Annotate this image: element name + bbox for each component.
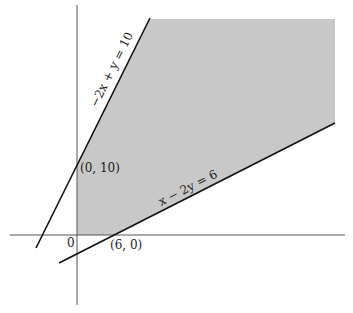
feasible-region-diagram: 0 (0, 10) (6, 0) −2x + y = 10 x − 2y = 6 bbox=[0, 0, 353, 313]
origin-label: 0 bbox=[67, 236, 75, 250]
point-6-0-label: (6, 0) bbox=[110, 238, 142, 252]
point-0-10-label: (0, 10) bbox=[80, 161, 120, 175]
